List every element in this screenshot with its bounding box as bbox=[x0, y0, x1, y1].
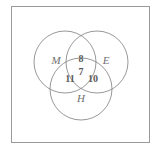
venn-diagram-canvas: M E H 8 7 11 10 bbox=[0, 0, 162, 148]
region-value-e-and-h: 10 bbox=[88, 73, 98, 84]
region-value-m-and-e-and-h: 7 bbox=[79, 66, 84, 77]
set-label-m: M bbox=[50, 54, 61, 66]
set-label-e: E bbox=[102, 54, 110, 66]
region-value-m-and-h: 11 bbox=[65, 73, 74, 84]
venn-diagram-figure: M E H 8 7 11 10 bbox=[0, 0, 162, 148]
set-label-h: H bbox=[76, 92, 86, 104]
region-value-m-and-e: 8 bbox=[79, 53, 84, 64]
